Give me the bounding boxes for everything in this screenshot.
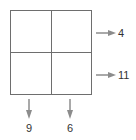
arrow-right-icon-row2: [96, 72, 116, 78]
row-sum-1: 4: [118, 28, 124, 39]
col-sum-1: 9: [26, 123, 32, 134]
arrow-down-icon-col1: [26, 99, 32, 119]
col-sum-2: 6: [67, 123, 73, 134]
arrow-right-icon-row1: [96, 30, 116, 36]
row-sum-2: 11: [118, 70, 129, 81]
arrow-down-icon-col2: [67, 99, 73, 119]
arrows-layer: [0, 0, 136, 140]
